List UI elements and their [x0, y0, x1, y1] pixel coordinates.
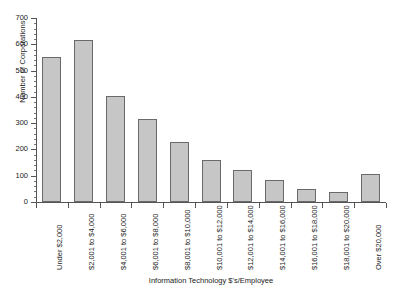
x-axis-title: Information Technology $'s/Employee	[36, 276, 386, 285]
y-tick-minor	[34, 76, 36, 77]
plot-area: 0100200300400500600700	[36, 18, 386, 202]
bar	[74, 40, 93, 202]
y-tick-label: 0	[24, 197, 28, 206]
x-axis-label: $8,001 to $10,000	[183, 210, 192, 270]
bar	[42, 57, 61, 202]
y-tick-minor	[34, 50, 36, 51]
y-tick-minor	[34, 86, 36, 87]
y-tick-label: 100	[15, 171, 28, 180]
bar	[297, 189, 316, 202]
y-tick-label: 200	[15, 144, 28, 153]
y-tick-major: 300	[31, 123, 36, 124]
x-axis-label: $10,001 to $12,000	[215, 205, 224, 270]
y-tick-major: 200	[31, 149, 36, 150]
y-tick-minor	[34, 128, 36, 129]
x-axis-labels: Under $2,000$2,001 to $4,000$4,001 to $6…	[36, 206, 386, 272]
y-tick-major: 500	[31, 71, 36, 72]
bar	[233, 170, 252, 202]
y-tick-minor	[34, 81, 36, 82]
y-tick-minor	[34, 34, 36, 35]
y-tick-minor	[34, 118, 36, 119]
y-tick-minor	[34, 160, 36, 161]
y-axis-line	[36, 18, 37, 203]
x-axis-line	[36, 202, 386, 203]
x-axis-label: Under $2,000	[55, 225, 64, 270]
bar-chart: Number of Corporations 01002003004005006…	[0, 0, 403, 297]
y-tick-minor	[34, 29, 36, 30]
x-axis-label: $2,001 to $4,000	[87, 214, 96, 270]
y-tick-major: 400	[31, 97, 36, 98]
y-tick-minor	[34, 139, 36, 140]
y-tick-minor	[34, 186, 36, 187]
y-tick-minor	[34, 134, 36, 135]
y-tick-minor	[34, 165, 36, 166]
y-tick-major: 600	[31, 44, 36, 45]
bar	[106, 96, 125, 202]
y-tick-minor	[34, 170, 36, 171]
y-tick-minor	[34, 23, 36, 24]
y-tick-minor	[34, 197, 36, 198]
x-tick	[386, 203, 387, 208]
bar	[202, 160, 221, 202]
x-axis-label: $6,001 to $8,000	[151, 214, 160, 270]
bar	[329, 192, 348, 203]
y-tick-minor	[34, 144, 36, 145]
x-axis-label: $18,001 to $20,000	[342, 205, 351, 270]
y-tick-minor	[34, 181, 36, 182]
y-tick-minor	[34, 39, 36, 40]
bar	[361, 174, 380, 202]
y-tick-label: 500	[15, 66, 28, 75]
x-axis-label: $12,001 to $14,000	[246, 205, 255, 270]
y-tick-minor	[34, 113, 36, 114]
y-tick-minor	[34, 60, 36, 61]
x-axis-label: $4,001 to $6,000	[119, 214, 128, 270]
x-axis-label: $14,001 to $16,000	[278, 205, 287, 270]
y-tick-minor	[34, 55, 36, 56]
bar	[138, 119, 157, 202]
bar	[265, 180, 284, 202]
x-axis-label: Over $20,000	[374, 225, 383, 270]
y-tick-major: 100	[31, 176, 36, 177]
bar	[170, 142, 189, 202]
y-tick-minor	[34, 191, 36, 192]
y-tick-minor	[34, 155, 36, 156]
y-tick-label: 400	[15, 92, 28, 101]
y-tick-minor	[34, 102, 36, 103]
y-tick-minor	[34, 65, 36, 66]
y-tick-major: 700	[31, 18, 36, 19]
x-axis-label: $16,001 to $18,000	[310, 205, 319, 270]
y-tick-label: 700	[15, 13, 28, 22]
y-tick-minor	[34, 92, 36, 93]
y-tick-minor	[34, 107, 36, 108]
y-tick-label: 300	[15, 118, 28, 127]
y-tick-label: 600	[15, 39, 28, 48]
